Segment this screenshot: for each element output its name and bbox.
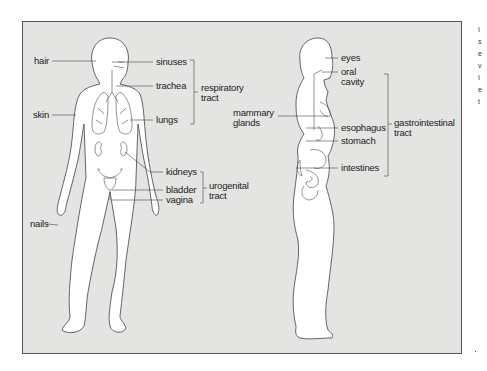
- label-hair: hair: [34, 56, 49, 66]
- label-sinuses: sinuses: [156, 57, 187, 67]
- label-kidneys: kidneys: [166, 167, 197, 177]
- edge-text-fragment: e: [478, 85, 482, 94]
- label-intestines: intestines: [341, 163, 379, 173]
- label-oral-line2: cavity: [341, 76, 364, 87]
- label-respiratory-line2: tract: [201, 92, 218, 103]
- edge-text-fragment: I: [478, 73, 480, 82]
- label-respiratory-tract: respiratory tract: [201, 83, 244, 103]
- front-body-outline: [57, 38, 159, 333]
- stray-mark: [475, 351, 476, 352]
- label-urogenital-line2: tract: [209, 190, 226, 201]
- label-oral-cavity: oral cavity: [341, 67, 364, 87]
- edge-text-fragment: s: [478, 37, 482, 46]
- edge-text-fragment: t: [478, 97, 480, 106]
- label-skin: skin: [33, 110, 49, 120]
- label-eyes: eyes: [341, 53, 360, 63]
- label-stomach: stomach: [341, 136, 376, 146]
- label-vagina: vagina: [166, 195, 193, 205]
- edge-text-fragment: I: [478, 25, 480, 34]
- label-mammary-glands: mammary glands: [233, 108, 274, 128]
- label-nails: nails: [30, 219, 49, 229]
- label-esophagus: esophagus: [341, 123, 386, 133]
- label-gastrointestinal-tract: gastrointestinal tract: [394, 118, 455, 138]
- label-gi-line2: tract: [394, 127, 411, 138]
- edge-text-fragment: v: [478, 61, 482, 70]
- label-mammary-line2: glands: [233, 117, 260, 128]
- label-lungs: lungs: [156, 115, 178, 125]
- label-trachea: trachea: [156, 81, 186, 91]
- edge-text-fragment: e: [478, 49, 482, 58]
- label-urogenital-tract: urogenital tract: [209, 181, 249, 201]
